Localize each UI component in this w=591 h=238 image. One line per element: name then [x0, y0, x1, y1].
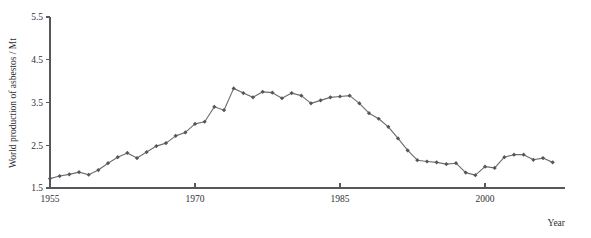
x-tick-label: 1970 — [186, 194, 205, 204]
y-axis-ticks: 1.52.53.54.55.5 — [31, 12, 50, 193]
x-tick-label: 2000 — [476, 194, 495, 204]
data-point-marker — [444, 162, 448, 166]
data-point-marker — [328, 95, 332, 99]
data-point-marker — [58, 174, 62, 178]
y-tick-label: 2.5 — [31, 141, 43, 151]
data-point-marker — [425, 159, 429, 163]
data-point-marker — [67, 172, 71, 176]
data-series-markers — [48, 86, 555, 180]
data-point-marker — [222, 108, 226, 112]
y-tick-label: 4.5 — [31, 55, 43, 65]
x-axis-ticks: 1955197019852000 — [41, 183, 495, 204]
y-tick-label: 3.5 — [31, 98, 43, 108]
data-point-marker — [125, 151, 129, 155]
data-point-marker — [232, 86, 236, 90]
asbestos-production-line-chart: 1.52.53.54.55.5 1955197019852000 Year Wo… — [0, 0, 591, 238]
data-point-marker — [338, 94, 342, 98]
data-point-marker — [435, 160, 439, 164]
data-point-marker — [522, 153, 526, 157]
data-point-marker — [512, 153, 516, 157]
x-tick-label: 1985 — [331, 194, 350, 204]
data-point-marker — [48, 176, 52, 180]
data-point-marker — [531, 158, 535, 162]
x-axis: 1955197019852000 — [41, 183, 566, 204]
plot-area — [48, 86, 555, 180]
x-axis-title: Year — [547, 218, 565, 228]
data-point-marker — [551, 160, 555, 164]
x-tick-label: 1955 — [41, 194, 60, 204]
data-point-marker — [290, 91, 294, 95]
y-axis-title: World production of asbestos / Mt — [8, 38, 18, 168]
chart-figure: 1.52.53.54.55.5 1955197019852000 Year Wo… — [0, 0, 591, 238]
data-point-marker — [87, 173, 91, 177]
y-tick-label: 5.5 — [31, 12, 43, 22]
data-point-marker — [541, 156, 545, 160]
y-tick-label: 1.5 — [31, 183, 43, 193]
data-point-marker — [77, 170, 81, 174]
data-point-marker — [241, 91, 245, 95]
y-axis: 1.52.53.54.55.5 — [31, 12, 50, 193]
data-series-line — [50, 88, 553, 178]
data-point-marker — [319, 98, 323, 102]
